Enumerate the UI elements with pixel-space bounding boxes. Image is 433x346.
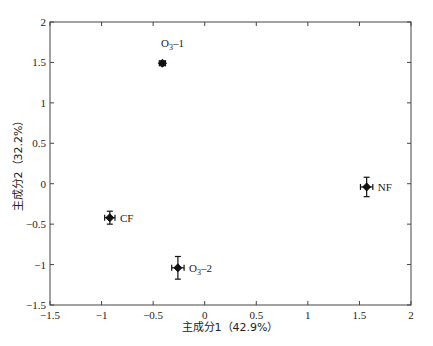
y-tick-label: 0 bbox=[41, 178, 47, 190]
data-point: NF bbox=[360, 177, 391, 196]
data-points: O3–1CFO3–2NF bbox=[105, 37, 392, 279]
y-tick-label: −1 bbox=[34, 259, 46, 271]
diamond-marker-icon bbox=[106, 214, 114, 222]
x-tick-label: 0.5 bbox=[249, 309, 263, 321]
diamond-marker-icon bbox=[174, 264, 182, 272]
point-label: O3–2 bbox=[189, 262, 212, 277]
x-tick-label: −0.5 bbox=[143, 309, 163, 321]
y-tick-label: 2 bbox=[41, 16, 47, 28]
plot-axes bbox=[50, 22, 411, 305]
y-tick-label: 0.5 bbox=[32, 137, 46, 149]
data-point: O3–2 bbox=[172, 256, 212, 279]
x-tick-label: 2 bbox=[408, 309, 414, 321]
data-point: CF bbox=[105, 211, 134, 224]
x-axis-ticks: −1.5−1−0.500.511.52 bbox=[40, 22, 414, 321]
point-label: NF bbox=[378, 181, 392, 193]
x-tick-label: −1 bbox=[96, 309, 108, 321]
y-tick-label: −0.5 bbox=[26, 218, 46, 230]
data-point: O3–1 bbox=[158, 37, 183, 67]
y-tick-label: 1 bbox=[41, 97, 47, 109]
y-tick-label: −1.5 bbox=[26, 299, 46, 311]
point-label: O3–1 bbox=[161, 37, 184, 52]
y-axis-title: 主成分2（32.2%） bbox=[12, 115, 25, 212]
x-tick-label: 1 bbox=[305, 309, 311, 321]
plot-frame bbox=[50, 22, 411, 305]
diamond-marker-icon bbox=[363, 183, 371, 191]
y-tick-label: 1.5 bbox=[32, 56, 46, 68]
point-label: CF bbox=[120, 212, 133, 224]
x-tick-label: 0 bbox=[202, 309, 208, 321]
y-axis-ticks: −1.5−1−0.500.511.52 bbox=[26, 16, 411, 311]
x-tick-label: 1.5 bbox=[353, 309, 367, 321]
pca-scatter-chart: −1.5−1−0.500.511.52 −1.5−1−0.500.511.52 … bbox=[0, 0, 433, 346]
x-axis-title: 主成分1（42.9%） bbox=[182, 321, 279, 334]
